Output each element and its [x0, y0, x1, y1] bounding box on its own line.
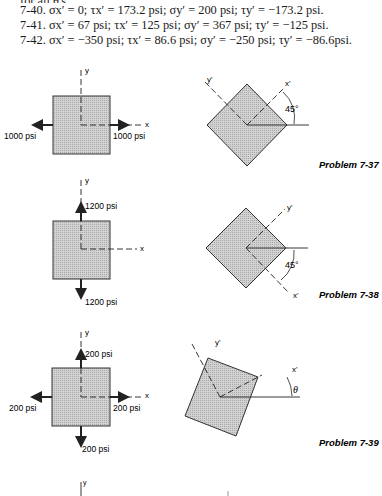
load-left: 1000 psi: [4, 131, 36, 141]
angle-label: 45°: [285, 260, 299, 270]
angle-label: θ: [293, 384, 298, 395]
problem-label-7-39: Problem 7-39: [319, 437, 379, 448]
problem-label-7-38: Problem 7-38: [319, 289, 379, 300]
axis-x-prime-label: x': [292, 365, 298, 374]
axis-y-prime-label: y': [207, 75, 213, 84]
partial-figure: [81, 482, 228, 496]
axis-y-label: y: [83, 479, 87, 487]
element-7-38: [53, 180, 137, 298]
axis-x-label: x: [145, 120, 149, 129]
axis-x-label: x: [145, 391, 149, 400]
figures: y x 1000 psi 1000 psi y' x' 45° Problem …: [0, 0, 382, 496]
axis-y-prime-label: y': [215, 338, 221, 347]
load-top: 1200 psi: [85, 201, 117, 211]
problem-label-7-37: Problem 7-37: [319, 159, 379, 170]
load-right: 1000 psi: [113, 131, 145, 141]
load-bottom: 200 psi: [82, 444, 110, 454]
load-left: 200 psi: [9, 403, 37, 413]
axis-x-prime-label: x': [285, 79, 291, 88]
angle-label: 45°: [285, 104, 299, 114]
load-right: 200 psi: [113, 403, 141, 413]
axis-x-label: x: [140, 244, 144, 253]
axis-y-label: y: [85, 66, 89, 75]
rotated-element-7-39: [185, 342, 300, 441]
axis-y-prime-label: y': [287, 203, 293, 212]
axis-y-label: y: [85, 176, 89, 185]
rotated-element-7-37: [205, 82, 309, 166]
axis-y-label: y: [85, 328, 89, 337]
rotated-element-7-38: [206, 208, 308, 292]
axis-x-prime-label: x': [293, 291, 299, 300]
load-bottom: 1200 psi: [85, 297, 117, 307]
element-7-37: [33, 70, 142, 154]
load-top: 200 psi: [85, 349, 113, 359]
